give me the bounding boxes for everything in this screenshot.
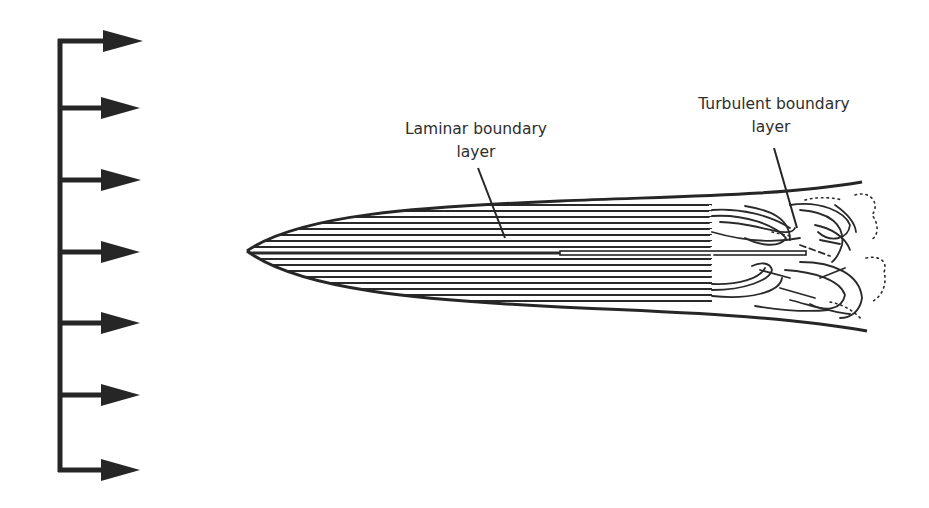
- turbulent-label-line2: layer: [752, 118, 792, 136]
- velocity-profile: [58, 30, 143, 481]
- velocity-arrow: [58, 241, 140, 263]
- laminar-label-line1: Laminar boundary: [405, 120, 547, 138]
- laminar-label-line2: layer: [457, 143, 497, 161]
- lower-boundary-edge: [247, 251, 867, 331]
- flat-plate: [560, 251, 806, 255]
- turbulent-eddies: [712, 204, 862, 318]
- turbulent-dotted-edges: [772, 194, 885, 320]
- velocity-arrow: [58, 459, 140, 481]
- velocity-arrow: [58, 97, 140, 119]
- velocity-arrow: [58, 312, 140, 334]
- velocity-arrow: [58, 169, 141, 191]
- velocity-arrow: [58, 384, 140, 406]
- turbulent-label-line1: Turbulent boundary: [697, 95, 850, 113]
- boundary-layer-diagram: Laminar boundary layer Turbulent boundar…: [0, 0, 929, 508]
- velocity-arrow: [58, 30, 143, 52]
